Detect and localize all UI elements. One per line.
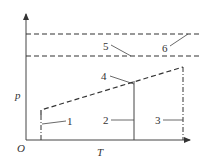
leader-4 (110, 76, 134, 84)
x-axis-label: T (97, 146, 104, 158)
leader-6 (170, 34, 188, 46)
leader-1 (42, 121, 66, 124)
line-4-sloped-dashed (41, 67, 183, 115)
label-1: 1 (67, 115, 73, 127)
origin-label: O (17, 142, 25, 154)
label-2: 2 (103, 114, 109, 126)
label-5: 5 (103, 40, 109, 52)
label-6: 6 (162, 42, 168, 54)
label-3: 3 (155, 114, 161, 126)
y-axis-label: p (14, 89, 21, 101)
p-t-diagram: p O T 1 2 3 4 5 6 (0, 0, 224, 165)
label-4: 4 (101, 70, 107, 82)
leader-5 (111, 45, 131, 56)
